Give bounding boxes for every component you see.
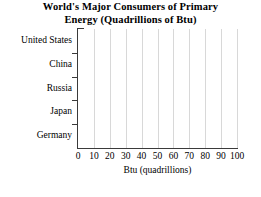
y-tick-mark [72,77,78,78]
y-tick-mark [72,53,78,54]
plot-top-left-corner-mark [77,28,84,29]
y-category-label: China [0,59,77,70]
gridline [158,29,159,148]
gridline [189,29,190,148]
gridline [221,29,222,148]
y-tick-mark [72,100,78,101]
gridline [173,29,174,148]
chart-title: World's Major Consumers of Primary Energ… [0,1,261,26]
y-category-label: Japan [0,106,77,117]
y-category-label: United States [0,35,77,46]
x-tick-label: 100 [225,150,249,162]
chart-title-line-2: Energy (Quadrillions of Btu) [0,14,261,27]
chart-title-line-1: World's Major Consumers of Primary [0,1,261,14]
gridline [205,29,206,148]
gridline [110,29,111,148]
x-axis-title: Btu (quadrillions) [78,164,237,176]
gridline [126,29,127,148]
gridline [142,29,143,148]
gridline [94,29,95,148]
y-category-label: Germany [0,130,77,141]
bar-chart-figure: World's Major Consumers of Primary Energ… [0,0,261,197]
gridline [237,29,238,148]
y-axis-spine [77,28,78,149]
y-tick-mark [72,124,78,125]
y-category-label: Russia [0,83,77,94]
plot-area [78,29,237,148]
x-axis-spine [77,148,238,149]
x-axis-tick-labels: 0102030405060708090100 [0,150,261,164]
x-gridlines [78,29,237,148]
